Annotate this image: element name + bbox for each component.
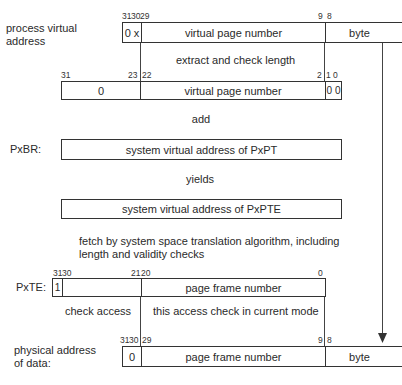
step-fetch: fetch by system space translation algori…: [79, 235, 339, 261]
bit-0: 0: [333, 70, 338, 80]
bit-8: 8: [327, 11, 332, 21]
byte-offset-line: [382, 43, 383, 338]
bit-8: 8: [327, 335, 332, 345]
bit-30: 30: [129, 335, 138, 345]
physical-address-label: physical address of data:: [14, 344, 96, 370]
process-va-label: process virtual address: [6, 22, 77, 48]
bit-30: 30: [62, 268, 71, 278]
physical-address-register: 0 page frame number byte: [122, 346, 402, 367]
step-add: add: [186, 113, 216, 126]
step-fetch-line2: length and validity checks: [79, 248, 339, 261]
arrow-down-icon: [378, 333, 387, 343]
pxte-label: PxTE:: [16, 281, 46, 294]
pxte-register: 1 page frame number: [52, 278, 326, 297]
bit-9: 9: [318, 11, 323, 21]
field-byte: byte: [325, 23, 393, 42]
field-valid-bit: 1: [53, 279, 62, 296]
bit-31: 31: [61, 70, 70, 80]
bit-29: 29: [140, 11, 149, 21]
field-pxpte-address: system virtual address of PxPTE: [62, 200, 341, 218]
step-fetch-line1: fetch by system space translation algori…: [79, 235, 339, 248]
field-protection: [62, 279, 141, 296]
bit-23: 23: [128, 70, 137, 80]
bit-21: 21: [131, 268, 140, 278]
process-va-label-line2: address: [6, 35, 77, 48]
bit-2: 2: [317, 70, 322, 80]
connector-line: [140, 297, 141, 346]
field-zero: 0: [62, 82, 140, 99]
field-pxpt-address: system virtual address of PxPT: [62, 140, 341, 159]
field-low-bits: 0 0: [325, 82, 341, 99]
physical-label-line1: physical address: [14, 344, 96, 357]
field-byte: byte: [325, 347, 393, 366]
bit-29: 29: [142, 335, 151, 345]
bit-22: 22: [142, 70, 151, 80]
pxbr-register: system virtual address of PxPT: [61, 139, 342, 160]
field-virtual-page-number: virtual page number: [141, 23, 325, 42]
physical-label-line2: of data:: [14, 357, 96, 370]
process-va-label-line1: process virtual: [6, 22, 77, 35]
shifted-vpn-register: 0 virtual page number 0 0: [61, 81, 342, 100]
check-access-label: check access: [65, 305, 131, 318]
step-extract-check-length: extract and check length: [176, 54, 295, 67]
field-page-frame-number: page frame number: [141, 279, 325, 296]
connector-line: [324, 43, 325, 81]
connector-line: [140, 43, 141, 81]
bit-20: 20: [141, 268, 150, 278]
field-0x: 0 x: [123, 23, 141, 42]
field-zero: 0: [123, 347, 141, 366]
process-va-register: 0 x virtual page number byte: [122, 22, 402, 43]
bit-0: 0: [318, 268, 323, 278]
bit-9: 9: [318, 335, 323, 345]
field-virtual-page-number: virtual page number: [140, 82, 325, 99]
field-page-frame-number: page frame number: [141, 347, 325, 366]
pxpte-address-register: system virtual address of PxPTE: [61, 199, 342, 219]
connector-line: [324, 297, 325, 346]
bit-1: 1: [326, 70, 331, 80]
step-yields: yields: [178, 173, 222, 186]
pxbr-label: PxBR:: [10, 143, 41, 156]
check-mode-label: this access check in current mode: [153, 305, 319, 318]
